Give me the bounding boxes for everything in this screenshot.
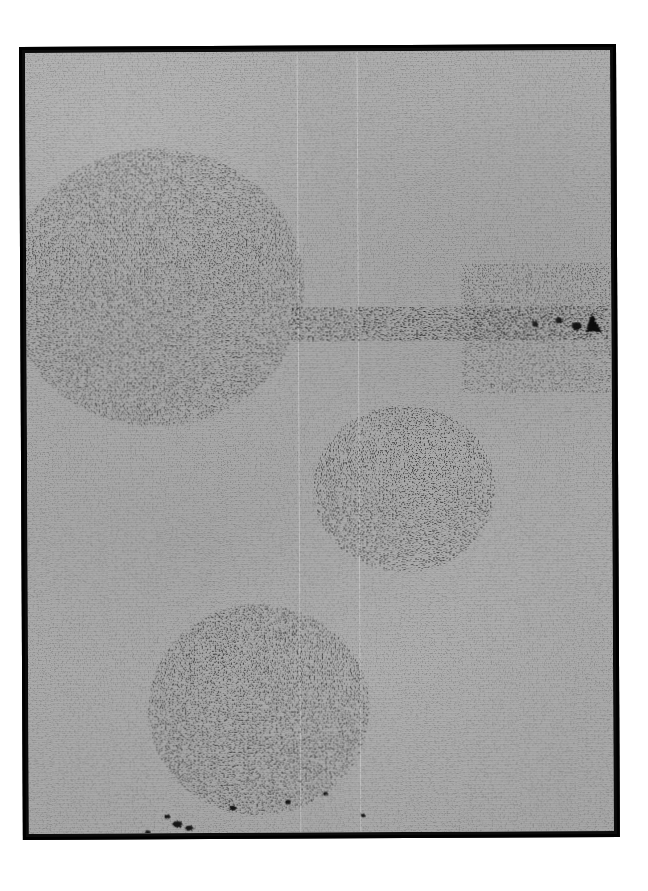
plate-objects-layer	[25, 50, 614, 834]
plate-image-area	[25, 50, 614, 834]
plate-border	[19, 44, 620, 840]
plate-field-grain	[25, 50, 614, 834]
page-root: { "image": { "kind": "scanned-photograph…	[0, 0, 648, 891]
